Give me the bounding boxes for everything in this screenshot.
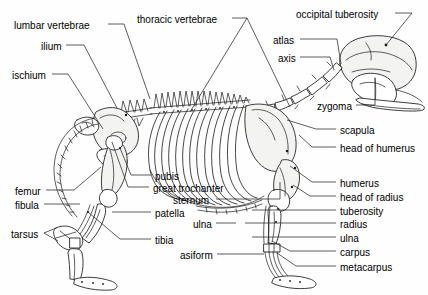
label-fibula: fibula <box>15 200 39 211</box>
leader-lumbar-to-spine <box>124 24 150 99</box>
leader-head-radius <box>293 185 336 196</box>
carpus-bone <box>264 244 280 252</box>
label-atlas: atlas <box>273 35 294 46</box>
label-thoracic-vertebrae: thoracic vertebrae <box>137 14 217 25</box>
leader-head-humerus <box>299 135 336 147</box>
label-carpus: carpus <box>340 247 370 258</box>
leader-thoracic-left <box>190 18 247 112</box>
label-zygoma: zygoma <box>317 101 352 112</box>
metacarpus-bone <box>265 252 316 289</box>
radius-bone <box>268 206 281 244</box>
leader-atlas <box>300 39 341 64</box>
label-ilium: ilium <box>41 41 62 52</box>
diagram-canvas: lumbar vertebraethoracic vertebraeoccipi… <box>0 0 428 295</box>
label-lumbar-vertebrae: lumbar vertebrae <box>14 20 90 31</box>
leader-scapula <box>287 120 336 129</box>
metatarsus-bone <box>68 249 117 291</box>
label-ulna-upper: ulna <box>193 219 212 230</box>
label-ischium: ischium <box>12 70 46 81</box>
label-radius: radius <box>340 219 367 230</box>
label-occipital-tuberosity: occipital tuberosity <box>296 9 378 20</box>
leader-ilium <box>66 45 117 108</box>
label-patella: patella <box>155 208 184 219</box>
label-tuberosity: tuberosity <box>340 206 383 217</box>
label-femur: femur <box>15 186 41 197</box>
label-tibia: tibia <box>155 235 173 246</box>
label-scapula: scapula <box>340 125 374 136</box>
label-pubis: pubis <box>155 171 179 182</box>
label-great-trochanter: great trochanter <box>153 183 224 194</box>
label-ulna-lower: ulna <box>340 233 359 244</box>
label-tarsus: tarsus <box>11 229 38 240</box>
leader-carpus <box>272 241 336 251</box>
label-head-of-radius: head of radius <box>340 192 403 203</box>
label-axis: axis <box>278 53 296 64</box>
label-sternum: sternum <box>173 195 209 206</box>
label-humerus: humerus <box>340 178 379 189</box>
label-asiform: asiform <box>180 250 213 261</box>
label-head-of-humerus: head of humerus <box>340 143 415 154</box>
label-metacarpus: metacarpus <box>340 262 392 273</box>
leader-metacarpus <box>277 253 336 266</box>
